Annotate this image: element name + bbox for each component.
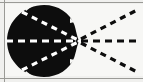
figure-container: Black irregular oval shape with three wh… [0,0,143,82]
figure-svg [0,0,143,82]
convergence-point [77,39,80,42]
